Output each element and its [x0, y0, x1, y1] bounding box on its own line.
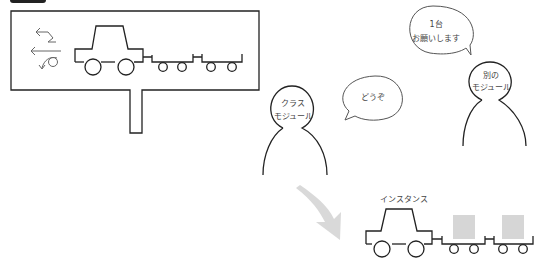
car-train-instance	[366, 209, 533, 257]
other-module-line2: モジュール	[472, 83, 511, 92]
diagram-canvas: 1台 お願いします どうぞ クラス モジュール 別の モジュール インスタンス	[0, 0, 537, 265]
signboard	[11, 11, 259, 133]
speech-bubble-request: 1台 お願いします	[410, 6, 474, 55]
request-line2: お願いします	[412, 34, 460, 43]
class-module-line1: クラス	[281, 99, 305, 108]
instance-label: インスタンス	[380, 195, 428, 204]
request-line1: 1台	[429, 19, 442, 29]
class-module-line2: モジュール	[274, 112, 313, 121]
speech-bubble-reply: どうぞ	[343, 76, 403, 120]
curved-arrow-icon	[296, 185, 341, 240]
other-module-line1: 別の	[483, 71, 499, 80]
reply-text: どうぞ	[361, 93, 385, 102]
